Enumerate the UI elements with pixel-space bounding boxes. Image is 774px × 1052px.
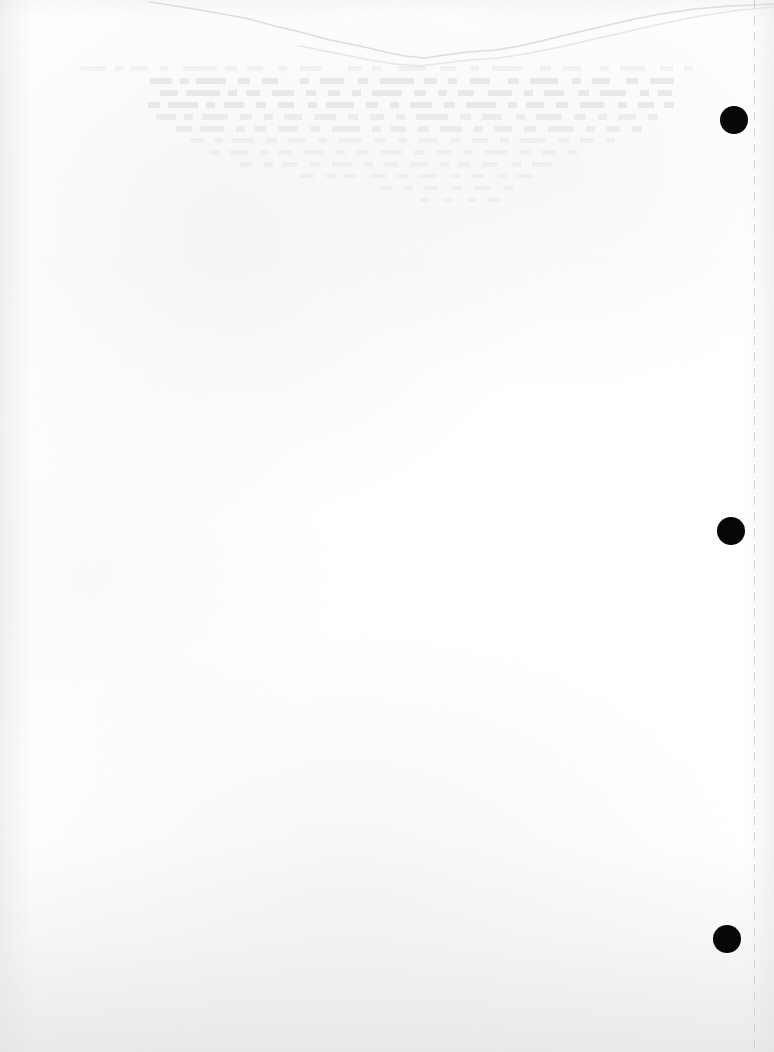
right-margin-dashed-line bbox=[754, 0, 755, 1052]
registration-dot bbox=[720, 106, 748, 134]
paper-background bbox=[0, 0, 774, 1052]
registration-dot bbox=[713, 925, 741, 953]
scanned-page bbox=[0, 0, 774, 1052]
registration-dot bbox=[717, 517, 745, 545]
